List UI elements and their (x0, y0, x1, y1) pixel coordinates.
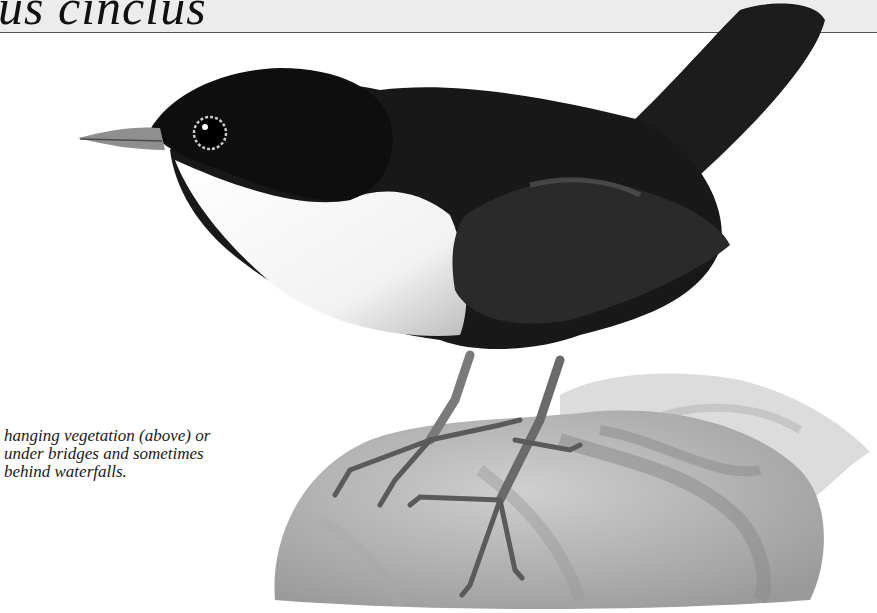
eye (194, 117, 226, 149)
caption: hanging vegetation (above) or under brid… (4, 427, 304, 481)
caption-line: hanging vegetation (above) or (4, 427, 304, 445)
dipper-illustration (0, 0, 877, 613)
caption-line: under bridges and sometimes (4, 445, 304, 463)
caption-line: behind waterfalls. (4, 463, 304, 481)
rock (274, 373, 870, 609)
